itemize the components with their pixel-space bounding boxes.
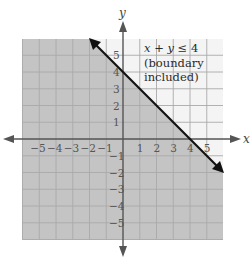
y-tick-label: 2 xyxy=(113,100,120,112)
y-tick-label: 1 xyxy=(113,116,120,128)
svg-text:x + y ≤ 4: x + y ≤ 4 xyxy=(144,41,198,55)
x-tick-label: −4 xyxy=(47,142,63,154)
y-tick-label: −4 xyxy=(109,200,125,212)
x-tick-label: 5 xyxy=(204,142,211,154)
x-tick-label: −3 xyxy=(64,142,79,154)
y-tick-label: −1 xyxy=(109,150,124,162)
x-axis-label: x xyxy=(243,132,250,146)
x-tick-label: −2 xyxy=(81,142,96,154)
y-tick-label: 3 xyxy=(113,83,120,95)
x-tick-label: 4 xyxy=(187,142,194,154)
y-tick-label: 4 xyxy=(113,66,120,78)
x-axis-left-arrow-icon xyxy=(3,135,14,143)
annotation-relation: ≤ 4 xyxy=(174,41,198,55)
x-tick-label: 3 xyxy=(170,142,177,154)
annotation-plus: + xyxy=(151,41,168,55)
y-tick-label: −3 xyxy=(109,183,124,195)
y-axis-up-arrow-icon xyxy=(119,21,127,32)
y-tick-label: −5 xyxy=(109,217,124,229)
y-axis-down-arrow-icon xyxy=(119,246,127,257)
inequality-graph: −5−4−3−2−112345 54321−1−2−3−4−5 x y x + … xyxy=(0,0,252,268)
annotation-line3: included) xyxy=(144,70,199,84)
y-tick-label: −2 xyxy=(109,167,124,179)
x-axis-right-arrow-icon xyxy=(230,135,241,143)
x-tick-label: 2 xyxy=(154,142,161,154)
annotation-line2: (boundary xyxy=(144,56,204,70)
inequality-annotation: x + y ≤ 4 (boundary included) xyxy=(144,41,204,84)
y-axis-label: y xyxy=(118,6,126,20)
x-tick-label: −5 xyxy=(30,142,45,154)
x-tick-label: 1 xyxy=(137,142,144,154)
y-tick-label: 5 xyxy=(113,49,120,61)
